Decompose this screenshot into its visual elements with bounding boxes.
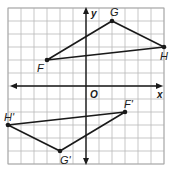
triangle-fgh	[47, 21, 164, 60]
axes	[10, 7, 163, 165]
vertex-label-g: G	[110, 6, 119, 18]
vertex-point-g	[110, 19, 115, 24]
y-axis-label: y	[90, 8, 97, 19]
vertex-label-h-prime: H'	[4, 111, 15, 123]
vertex-point-h-prime	[6, 123, 11, 128]
vertex-label-g-prime: G'	[60, 154, 72, 166]
vertex-point-f	[45, 58, 50, 63]
vertex-point-f-prime	[123, 110, 128, 115]
coordinate-plane: xyOFGHF'G'H'	[0, 0, 177, 174]
origin-label: O	[90, 89, 98, 100]
vertex-point-g-prime	[58, 149, 63, 154]
vertex-point-h	[162, 45, 167, 50]
vertex-label-f-prime: F'	[124, 98, 134, 110]
vertex-label-f: F	[37, 62, 45, 74]
x-axis-left-arrow-icon	[10, 83, 17, 89]
triangle-f-prime-g-prime-h-prime	[8, 112, 125, 151]
x-axis-label: x	[156, 89, 163, 100]
vertex-label-h: H	[160, 50, 168, 62]
